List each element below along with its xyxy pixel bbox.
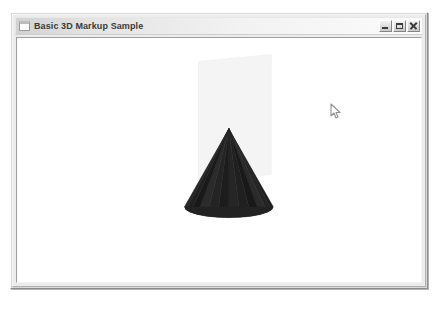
close-button[interactable] xyxy=(407,20,420,32)
maximize-button[interactable] xyxy=(393,20,406,32)
window-controls xyxy=(379,20,420,32)
application-window: Basic 3D Markup Sample xyxy=(10,12,428,289)
minimize-icon xyxy=(382,27,388,29)
window-icon xyxy=(19,21,30,31)
minimize-button[interactable] xyxy=(379,20,392,32)
3d-viewport[interactable] xyxy=(17,38,421,282)
title-bar[interactable]: Basic 3D Markup Sample xyxy=(15,17,423,35)
window-inner-frame: Basic 3D Markup Sample xyxy=(12,14,426,287)
cone-base xyxy=(185,207,274,218)
window-title: Basic 3D Markup Sample xyxy=(34,20,379,32)
maximize-icon xyxy=(396,23,403,29)
client-area[interactable] xyxy=(16,37,422,283)
